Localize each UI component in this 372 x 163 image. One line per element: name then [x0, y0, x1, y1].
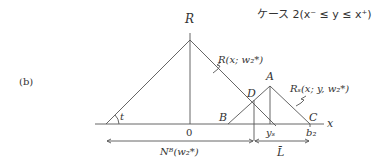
- angle-arc: [115, 115, 119, 124]
- r-right-slope: [190, 40, 276, 126]
- r-left-slope: [106, 40, 190, 124]
- x-axis-label: x: [327, 117, 334, 130]
- panel-label: (b): [19, 76, 33, 87]
- case-title: ケース 2(x⁻ ≤ y ≤ x⁺): [257, 8, 372, 21]
- point-label-r: R: [184, 12, 194, 26]
- b2-label: b₂: [306, 127, 316, 138]
- point-label-c: C: [309, 111, 318, 124]
- point-label-a: A: [265, 70, 274, 83]
- left-span-label: Nᴮ(w₂*): [159, 146, 199, 157]
- angle-label-t: t: [120, 111, 125, 122]
- r-curve-label: R(x; w₂*): [217, 54, 263, 65]
- point-label-d: D: [246, 87, 256, 100]
- origin-label: 0: [186, 127, 192, 138]
- right-span-label: L̄: [276, 146, 284, 159]
- point-label-b: B: [218, 111, 227, 124]
- rs-curve-label: Rₛ(x; y, w₂*): [289, 83, 349, 94]
- rs-label-pointer: [296, 96, 306, 106]
- ys-label: yₛ: [265, 127, 275, 138]
- diagram: ケース 2(x⁻ ≤ y ≤ x⁺) (b) R R(x; w₂*) A Rₛ(…: [0, 0, 372, 163]
